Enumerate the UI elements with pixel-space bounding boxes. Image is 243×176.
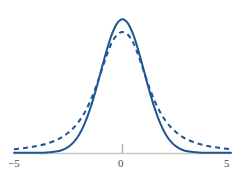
series-normal-curve	[14, 19, 231, 153]
x-axis-tick-label-zero: 0	[118, 158, 124, 169]
x-axis-tick-label-max: 5	[224, 158, 230, 169]
x-axis-tick-label-min: −5	[8, 158, 20, 169]
distribution-plot	[0, 0, 243, 176]
chart-figure: −5 0 5	[0, 0, 243, 176]
series-heavy-tailed-curve	[14, 32, 231, 149]
